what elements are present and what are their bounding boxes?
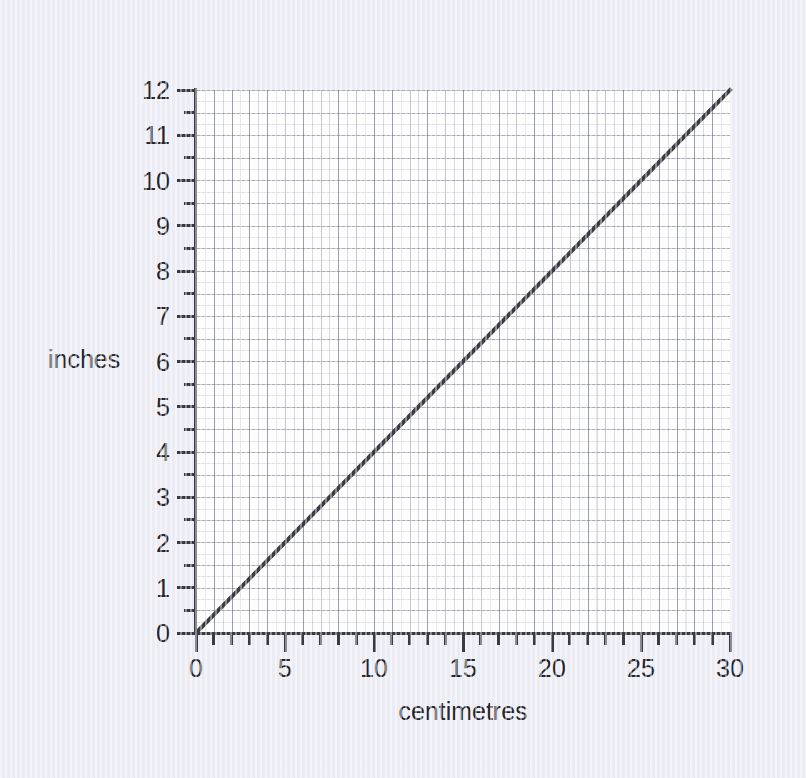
y-axis-tick-label: 5 [156,394,170,419]
y-axis-minor-tick [184,337,194,340]
y-axis-tick-label: 0 [156,621,170,646]
y-axis-minor-tick [184,247,194,250]
y-axis-major-tick [177,270,194,273]
y-axis-tick-labels: 0123456789101112 [120,88,170,635]
x-axis-major-tick [195,635,198,652]
x-axis-minor-tick [693,635,696,645]
x-axis-tick-label: 15 [449,656,477,681]
y-axis-minor-tick [184,609,194,612]
x-axis-minor-tick [604,635,607,645]
y-axis-tick-label: 6 [156,349,170,374]
y-axis-minor-tick [184,156,194,159]
y-axis-tick-label: 9 [156,213,170,238]
y-axis-tick-label: 7 [156,304,170,329]
y-axis-major-tick [177,224,194,227]
y-axis-major-tick [177,496,194,499]
x-axis-tick-label: 25 [627,656,655,681]
conversion-line [196,90,730,633]
y-axis-spine [194,88,197,635]
x-axis-minor-tick [230,635,233,645]
x-axis-minor-tick [622,635,625,645]
x-axis-minor-tick [586,635,589,645]
x-axis-minor-tick [497,635,500,645]
x-axis-minor-tick [355,635,358,645]
x-axis-minor-tick [711,635,714,645]
y-axis-minor-tick [184,292,194,295]
x-axis-major-tick [462,635,465,652]
x-axis-major-tick [373,635,376,652]
x-axis-tick-label: 10 [360,656,388,681]
y-axis-major-tick [177,541,194,544]
x-axis-minor-tick [533,635,536,645]
y-axis-major-tick [177,360,194,363]
y-axis-minor-tick [184,202,194,205]
y-axis-major-tick [177,89,194,92]
x-axis-title: centimetres [196,697,730,726]
x-axis-minor-tick [426,635,429,645]
x-axis-minor-tick [319,635,322,645]
x-axis-tick-labels: 051015202530 [194,656,732,690]
y-axis-tick-label: 12 [142,78,170,103]
x-axis-minor-tick [479,635,482,645]
y-axis-minor-tick [184,383,194,386]
y-axis-minor-tick [184,564,194,567]
y-axis-minor-tick [184,473,194,476]
x-axis-tick-label: 0 [189,656,203,681]
x-axis-minor-tick [301,635,304,645]
y-axis-major-tick [177,405,194,408]
x-axis-major-tick [551,635,554,652]
x-axis-minor-tick [657,635,660,645]
y-axis-tick-label: 3 [156,485,170,510]
x-axis-minor-tick [444,635,447,645]
y-axis-title: inches [48,345,120,374]
y-axis-major-tick [177,586,194,589]
x-axis-tick-label: 5 [278,656,292,681]
x-axis-minor-tick [568,635,571,645]
y-axis-tick-label: 4 [156,440,170,465]
x-axis-tick-label: 30 [716,656,744,681]
y-axis-ticks [177,88,194,635]
y-axis-major-tick [177,179,194,182]
x-axis-ticks [194,635,732,652]
x-axis-minor-tick [337,635,340,645]
y-axis-major-tick [177,632,194,635]
x-axis-minor-tick [266,635,269,645]
x-axis-minor-tick [515,635,518,645]
x-axis-minor-tick [408,635,411,645]
y-axis-tick-label: 10 [142,168,170,193]
x-axis-tick-label: 20 [538,656,566,681]
x-axis-major-tick [729,635,732,652]
y-axis-minor-tick [184,428,194,431]
x-axis-minor-tick [390,635,393,645]
data-line-layer [196,90,730,633]
y-axis-tick-label: 8 [156,259,170,284]
y-axis-major-tick [177,315,194,318]
y-axis-tick-label: 1 [156,575,170,600]
y-axis-minor-tick [184,518,194,521]
x-axis-minor-tick [212,635,215,645]
x-axis-minor-tick [675,635,678,645]
x-axis-major-tick [640,635,643,652]
conversion-graph-figure: 0123456789101112 051015202530 inches cen… [0,0,806,778]
x-axis-major-tick [284,635,287,652]
y-axis-major-tick [177,134,194,137]
y-axis-tick-label: 11 [144,123,170,148]
y-axis-tick-label: 2 [156,530,170,555]
y-axis-minor-tick [184,111,194,114]
y-axis-major-tick [177,451,194,454]
x-axis-minor-tick [248,635,251,645]
